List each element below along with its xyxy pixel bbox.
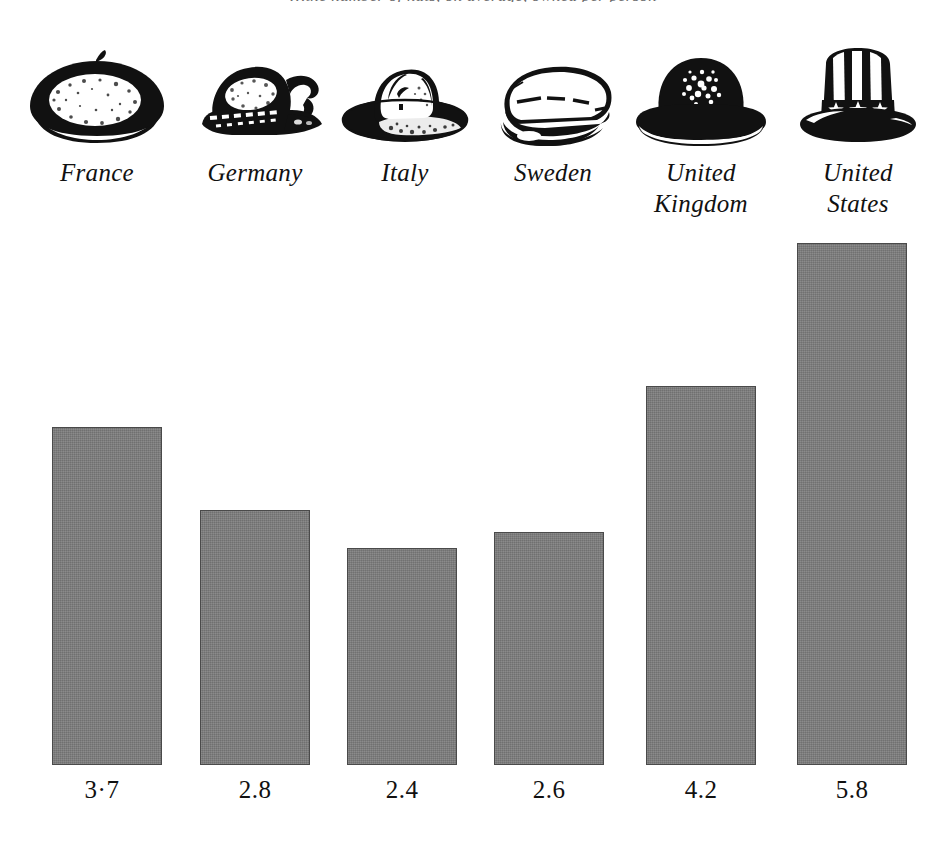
country-label-italy: Italy	[330, 157, 480, 188]
country-label-germany: Germany	[180, 157, 330, 188]
value-label-sweden: 2.6	[474, 776, 624, 804]
fedora-hat-icon	[330, 38, 480, 148]
country-label-united-states: United States	[783, 157, 933, 219]
value-label-italy: 2.4	[327, 776, 477, 804]
value-label-germany: 2.8	[180, 776, 330, 804]
value-label-france: 3·7	[27, 776, 177, 804]
beret-hat-icon	[22, 38, 172, 148]
bowler-hat-icon	[626, 38, 776, 148]
country-label-france: France	[22, 157, 172, 188]
bar-sweden	[494, 532, 604, 765]
bar-united-kingdom	[646, 386, 756, 765]
bar-united-states	[797, 243, 907, 765]
value-label-united-states: 5.8	[777, 776, 927, 804]
uncle-sam-top-hat-icon	[783, 38, 933, 148]
swedish-cap-icon	[478, 38, 628, 148]
tyrolean-hat-icon	[180, 38, 330, 148]
hat-ownership-bar-chart: …the number of hats, on average, owned p…	[0, 0, 947, 850]
bar-germany	[200, 510, 310, 765]
bar-france	[52, 427, 162, 765]
country-label-united-kingdom: United Kingdom	[626, 157, 776, 219]
country-label-sweden: Sweden	[478, 157, 628, 188]
bar-italy	[347, 548, 457, 765]
value-label-united-kingdom: 4.2	[626, 776, 776, 804]
